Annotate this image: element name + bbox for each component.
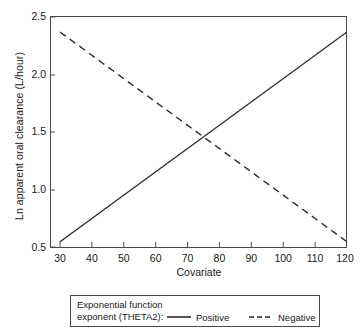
legend-title-line-1: Exponential function [77, 299, 163, 310]
x-axis-title: Covariate [50, 266, 348, 278]
x-axis-ticks [60, 242, 347, 247]
y-tick-label: 1.0 [14, 184, 46, 195]
x-tick-label: 120 [325, 252, 360, 264]
legend-label-negative: Negative [278, 312, 316, 323]
legend-entry-positive: Positive [167, 310, 229, 324]
legend: Exponential function exponent (THETA2): … [70, 295, 320, 327]
y-tick-label: 1.5 [14, 126, 46, 137]
legend-title-line-2: exponent (THETA2): [77, 311, 163, 322]
plot-canvas [50, 16, 347, 248]
legend-label-positive: Positive [196, 312, 229, 323]
y-tick-label: 2.0 [14, 69, 46, 80]
y-tick-label: 2.5 [14, 11, 46, 22]
legend-entry-negative: Negative [249, 310, 316, 324]
solid-line-icon [167, 313, 191, 321]
dashed-line-icon [249, 313, 273, 321]
chart-figure: Ln apparent oral clearance (L/hour) 2.5 … [0, 0, 360, 333]
y-axis-ticks [50, 17, 55, 247]
